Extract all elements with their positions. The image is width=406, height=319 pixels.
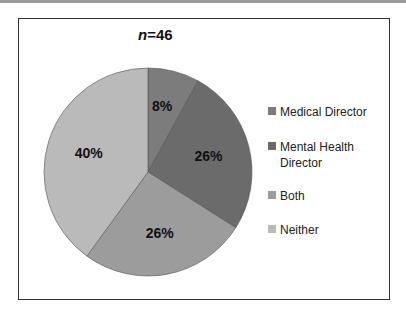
legend-label: Medical Director — [280, 104, 390, 120]
legend-swatch — [268, 142, 276, 150]
legend-swatch — [268, 107, 276, 115]
legend-swatch — [268, 225, 276, 233]
legend-item-mental-health-director: Mental Health Director — [268, 139, 360, 171]
legend-item-medical-director: Medical Director — [268, 104, 390, 120]
legend-item-neither: Neither — [268, 222, 390, 238]
legend-item-both: Both — [268, 188, 390, 204]
slice-label-both: 26% — [146, 225, 175, 241]
slice-label-mental-health-director: 26% — [194, 148, 223, 164]
legend-label: Neither — [280, 222, 390, 238]
legend-label: Both — [280, 188, 390, 204]
legend-swatch — [268, 191, 276, 199]
slice-label-medical-director: 8% — [152, 98, 173, 114]
slice-label-neither: 40% — [75, 145, 104, 161]
legend-label: Mental Health Director — [280, 139, 360, 171]
